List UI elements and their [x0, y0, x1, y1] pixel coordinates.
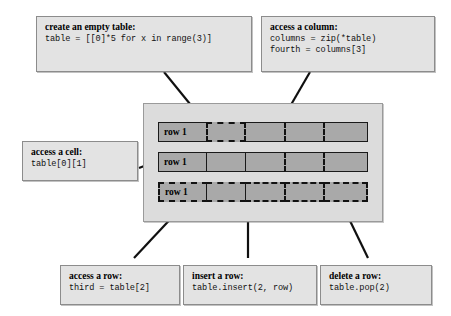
- callout-access-column-title: access a column:: [270, 22, 427, 34]
- callout-access-cell-code: table[0][1]: [31, 159, 130, 170]
- row-label: row 1: [165, 187, 188, 197]
- table-cell-r0c3: [284, 122, 325, 142]
- callout-delete-row-code: table.pop(2): [329, 283, 424, 294]
- diagram-canvas: create an empty table: table = [[0]*5 fo…: [0, 0, 451, 316]
- table-cell-r1c1: [206, 152, 246, 172]
- table-cell-r1c2: [245, 152, 286, 172]
- leader-line-create-table: [164, 72, 190, 104]
- callout-access-cell: access a cell: table[0][1]: [22, 141, 138, 181]
- callout-delete-row: delete a row: table.pop(2): [320, 265, 432, 305]
- callout-insert-row-title: insert a row:: [192, 271, 309, 283]
- callout-access-column-code-2: fourth = columns[3]: [270, 45, 427, 56]
- table-panel: row 1 row 1 row 1: [143, 103, 383, 222]
- callout-access-row-code: third = table[2]: [69, 283, 172, 294]
- table-cell-r1c3: [284, 152, 325, 172]
- callout-access-column-code-1: columns = zip(*table): [270, 34, 427, 45]
- table-row: row 1: [158, 122, 370, 142]
- table-cell-r0c4: [324, 122, 368, 142]
- table-cell-r0c2: [245, 122, 286, 142]
- table-cell-r2c1: [206, 182, 246, 202]
- row-label: row 1: [164, 127, 187, 137]
- table-row: row 1: [158, 182, 370, 202]
- callout-create-table-title: create an empty table:: [45, 22, 244, 34]
- table-cell-r1c4: [324, 152, 368, 172]
- callout-create-table: create an empty table: table = [[0]*5 fo…: [36, 16, 252, 72]
- table-cell-r1c0: row 1: [158, 152, 208, 172]
- table-row: row 1: [158, 152, 370, 172]
- callout-insert-row: insert a row: table.insert(2, row): [183, 265, 317, 305]
- callout-access-row-title: access a row:: [69, 271, 172, 283]
- table-cell-r0c1: [206, 122, 246, 142]
- callout-access-row: access a row: third = table[2]: [60, 265, 180, 305]
- callout-access-column: access a column: columns = zip(*table) f…: [261, 16, 435, 72]
- callout-create-table-code: table = [[0]*5 for x in range(3)]: [45, 34, 244, 45]
- table-cell-r2c3: [284, 182, 325, 202]
- row-label: row 1: [164, 157, 187, 167]
- callout-access-cell-title: access a cell:: [31, 147, 130, 159]
- table-cell-r0c0: row 1: [158, 122, 208, 142]
- table-cell-r2c0: row 1: [158, 182, 208, 202]
- table-cell-r2c4: [324, 182, 368, 202]
- callout-insert-row-code: table.insert(2, row): [192, 283, 309, 294]
- table-cell-r2c2: [245, 182, 286, 202]
- callout-delete-row-title: delete a row:: [329, 271, 424, 283]
